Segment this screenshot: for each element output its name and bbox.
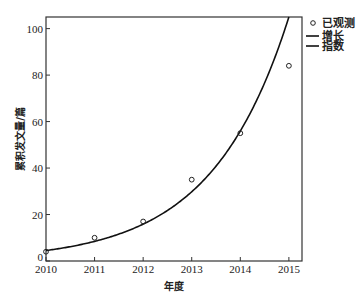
data-point	[286, 63, 291, 68]
data-point	[189, 177, 194, 182]
x-tick-label: 2010	[35, 263, 58, 275]
x-axis-title: 年度	[164, 280, 185, 292]
axes-frame	[46, 17, 302, 261]
data-point	[141, 219, 146, 224]
chart: 201020112012201320142015 020406080100 年度…	[0, 0, 364, 306]
x-tick-label: 2014	[229, 263, 252, 275]
plot-area	[46, 17, 302, 261]
data-point	[92, 235, 97, 240]
y-axis-title: 累积发文量/篇	[14, 107, 26, 171]
x-tick-label: 2013	[181, 263, 204, 275]
legend-marker-observed	[311, 21, 316, 26]
y-tick-label: 40	[32, 162, 44, 174]
x-tick-label: 2012	[132, 263, 154, 275]
x-axis: 201020112012201320142015	[35, 257, 300, 275]
legend-label-observed: 已观测	[322, 16, 355, 30]
y-tick-label: 80	[32, 69, 44, 81]
x-tick-label: 2015	[278, 263, 301, 275]
observed-points	[44, 63, 292, 254]
legend: 已观测 增长 指数	[306, 16, 355, 53]
y-tick-label: 60	[32, 116, 44, 128]
growth-curve	[46, 17, 289, 251]
y-tick-label: 20	[32, 209, 44, 221]
x-tick-label: 2011	[84, 263, 106, 275]
legend-label-exponential: 指数	[322, 39, 345, 53]
y-tick-label: 100	[27, 23, 44, 35]
y-tick-label: 0	[38, 251, 44, 263]
